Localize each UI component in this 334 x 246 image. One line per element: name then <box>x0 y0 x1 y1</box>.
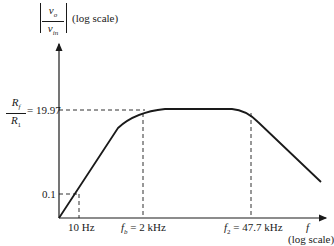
abs-bar-left <box>40 3 41 33</box>
y-axis-title-suffix: (log scale) <box>72 13 118 24</box>
r1-den: R <box>11 114 18 126</box>
tick-label-0.1: 0.1 <box>42 189 56 200</box>
f2-subscript: 2 <box>227 228 231 236</box>
gain-value-label: = 19.97 <box>27 105 61 116</box>
tick-label-f2: f2 = 47.7 kHz <box>224 222 283 236</box>
f2-value: = 47.7 kHz <box>233 221 282 233</box>
ylabel-den-sub: in <box>53 29 58 37</box>
magnitude-response-curve <box>59 109 321 218</box>
x-axis-title-suffix: (log scale) <box>288 234 334 245</box>
y-axis-title-fraction: vo vin <box>42 4 64 39</box>
tick-label-fb: fb = 2 kHz <box>121 222 166 236</box>
ylabel-num-sub: o <box>54 11 58 19</box>
rf-num-sub: f <box>18 103 20 111</box>
gain-label-fraction: Rf R1 <box>6 96 26 131</box>
fb-subscript: b <box>124 228 128 236</box>
r1-den-sub: 1 <box>18 121 22 129</box>
x-axis-title: f <box>306 222 309 233</box>
abs-bar-right <box>66 3 67 33</box>
fb-value: = 2 kHz <box>130 221 166 233</box>
tick-label-10hz: 10 Hz <box>68 222 95 233</box>
